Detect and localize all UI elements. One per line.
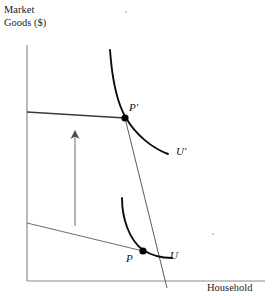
point-label-p: P bbox=[126, 252, 133, 264]
y-axis-label: MarketGoods ($) bbox=[4, 3, 46, 29]
shift-arrow bbox=[71, 130, 80, 226]
budget-line-upper bbox=[27, 112, 125, 118]
point-marker-lower bbox=[139, 247, 146, 254]
diagram-canvas bbox=[0, 0, 272, 296]
point-label-p-prime: P' bbox=[129, 101, 138, 113]
indifference-curve-diagram: MarketGoods ($) Household P' U' P U bbox=[0, 0, 272, 296]
y-axis-label-line2: Goods ($) bbox=[4, 17, 46, 28]
indifference-curve-upper bbox=[110, 50, 168, 154]
curve-label-u-prime: U' bbox=[176, 145, 186, 157]
scan-speck bbox=[125, 11, 127, 13]
budget-line-lower bbox=[27, 223, 143, 251]
scan-speck bbox=[212, 233, 214, 235]
x-axis-label: Household bbox=[207, 281, 253, 294]
curve-label-u: U bbox=[170, 249, 178, 261]
y-axis-label-line1: Market bbox=[4, 4, 34, 15]
point-marker-upper bbox=[121, 114, 128, 121]
axes-group bbox=[27, 45, 265, 281]
